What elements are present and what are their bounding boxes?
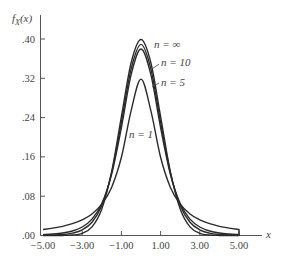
y-tick-label: .16 (22, 151, 35, 162)
label-n-infinity: n = ∞ (154, 38, 180, 50)
y-tick-label: .32 (22, 73, 35, 84)
curve-series-3 (43, 79, 239, 235)
axes (41, 15, 263, 236)
y-tick-label: .24 (22, 112, 36, 123)
x-axis-title: x (265, 228, 271, 240)
y-ticks: .00.08.16.24.32.40 (22, 34, 45, 242)
y-tick-label: .08 (22, 191, 35, 202)
curve-series-2 (43, 49, 239, 235)
t-distribution-chart: .00.08.16.24.32.40 −5.00−3.00−1.001.003.… (0, 0, 285, 263)
x-tick-label: −3.00 (70, 240, 94, 251)
label-n-5: n = 5 (161, 76, 185, 88)
x-tick-label: 1.00 (151, 240, 169, 251)
leader-n-10 (152, 64, 159, 69)
x-tick-label: 5.00 (230, 240, 248, 251)
x-tick-label: −1.00 (109, 240, 133, 251)
y-tick-label: .40 (22, 34, 35, 45)
y-axis-title: fX(x) (12, 12, 32, 27)
label-n-1: n = 1 (129, 128, 153, 140)
label-n-10: n = 10 (161, 56, 191, 68)
x-tick-label: −5.00 (31, 240, 55, 251)
x-tick-label: 3.00 (191, 240, 209, 251)
